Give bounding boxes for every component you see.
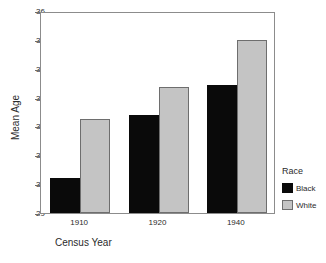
legend-swatch-icon bbox=[282, 200, 293, 210]
bar-chart: Mean Age 2930313233343536 191019201940 C… bbox=[0, 0, 326, 263]
legend-item-label: White bbox=[296, 201, 316, 210]
x-axis-tick-label: 1910 bbox=[59, 219, 99, 227]
bar-1910-black bbox=[50, 178, 80, 213]
bar-1940-white bbox=[237, 40, 267, 213]
x-axis-tick-label: 1920 bbox=[138, 219, 178, 227]
bar-1920-white bbox=[159, 87, 189, 213]
legend-item-white: White bbox=[282, 200, 326, 210]
x-axis-tick-label: 1940 bbox=[216, 219, 256, 227]
bar-1920-black bbox=[129, 115, 159, 213]
legend-item-label: Black bbox=[296, 184, 316, 193]
legend-entries: BlackWhite bbox=[282, 183, 326, 210]
bar-1910-white bbox=[80, 119, 110, 213]
bars-container bbox=[41, 13, 274, 213]
bar-1940-black bbox=[207, 85, 237, 213]
legend-swatch-icon bbox=[282, 183, 293, 193]
legend-title: Race bbox=[282, 166, 326, 176]
legend: Race BlackWhite bbox=[282, 166, 326, 210]
plot-area bbox=[40, 12, 275, 214]
legend-item-black: Black bbox=[282, 183, 326, 193]
y-axis-label: Mean Age bbox=[10, 73, 21, 163]
y-axis-tick-mark bbox=[35, 214, 40, 215]
x-axis-label: Census Year bbox=[55, 237, 112, 248]
